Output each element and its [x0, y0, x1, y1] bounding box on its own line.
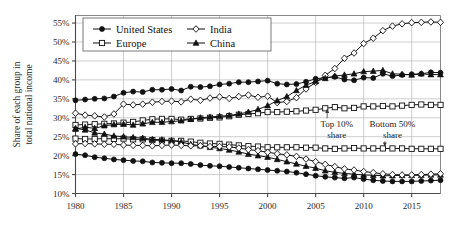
- y-tick-label: 30%: [53, 113, 70, 123]
- data-point-marker: [83, 97, 88, 102]
- annotation-label-top10-line2: share: [327, 130, 346, 140]
- data-point-marker: [227, 81, 232, 86]
- data-point-marker: [92, 155, 97, 160]
- data-point-marker: [207, 163, 212, 168]
- y-axis-title-line: Share of each group in: [12, 61, 22, 147]
- data-point-marker: [140, 90, 145, 95]
- data-point-marker: [438, 178, 443, 183]
- data-point-marker: [111, 157, 116, 162]
- data-point-marker: [140, 159, 145, 164]
- data-point-marker: [390, 104, 395, 109]
- data-point-marker: [399, 146, 404, 151]
- x-tick-label: 2000: [259, 201, 278, 211]
- x-tick-label: 2015: [403, 201, 422, 211]
- data-point-marker: [179, 88, 184, 93]
- data-point-marker: [169, 161, 174, 166]
- data-point-marker: [342, 106, 347, 111]
- data-point-marker: [294, 145, 299, 150]
- chart-container: 10%15%20%25%30%35%40%45%50%55%1980198519…: [0, 0, 453, 234]
- data-point-marker: [409, 102, 414, 107]
- data-point-marker: [428, 178, 433, 183]
- data-point-marker: [265, 109, 270, 114]
- data-point-marker: [100, 27, 105, 32]
- data-point-marker: [380, 103, 385, 108]
- annotation-label-bottom50: Bottom 50%: [370, 119, 416, 129]
- data-point-marker: [159, 87, 164, 92]
- data-point-marker: [188, 161, 193, 166]
- data-point-marker: [361, 177, 366, 182]
- data-point-marker: [419, 102, 424, 107]
- data-point-marker: [371, 146, 376, 151]
- x-tick-label: 1980: [67, 201, 86, 211]
- y-tick-label: 40%: [53, 75, 70, 85]
- x-tick-label: 1985: [115, 201, 134, 211]
- data-point-marker: [303, 108, 308, 113]
- data-point-marker: [73, 152, 78, 157]
- data-point-marker: [284, 82, 289, 87]
- legend-label: China: [210, 38, 235, 49]
- y-tick-label: 10%: [53, 189, 70, 199]
- data-point-marker: [217, 82, 222, 87]
- data-point-marker: [438, 102, 443, 107]
- data-point-marker: [323, 174, 328, 179]
- y-tick-label: 15%: [53, 170, 70, 180]
- data-point-marker: [236, 80, 241, 85]
- data-point-marker: [131, 89, 136, 94]
- data-point-marker: [332, 146, 337, 151]
- y-tick-label: 20%: [53, 151, 70, 161]
- data-point-marker: [102, 156, 107, 161]
- data-point-marker: [150, 87, 155, 92]
- data-point-marker: [371, 75, 376, 80]
- y-tick-label: 55%: [53, 18, 70, 28]
- data-point-marker: [169, 86, 174, 91]
- legend-label: United States: [116, 24, 172, 35]
- data-point-marker: [351, 105, 356, 110]
- data-point-marker: [313, 173, 318, 178]
- annotation-label-bottom50-line2: share: [383, 130, 402, 140]
- data-point-marker: [371, 104, 376, 109]
- data-point-marker: [342, 77, 347, 82]
- data-point-marker: [342, 146, 347, 151]
- data-point-marker: [371, 178, 376, 183]
- data-point-marker: [275, 168, 280, 173]
- data-point-marker: [150, 160, 155, 165]
- data-point-marker: [256, 79, 261, 84]
- data-point-marker: [294, 170, 299, 175]
- data-point-marker: [102, 96, 107, 101]
- data-point-marker: [419, 146, 424, 151]
- data-point-marker: [246, 166, 251, 171]
- data-point-marker: [265, 78, 270, 83]
- y-tick-label: 50%: [53, 37, 70, 47]
- data-point-marker: [179, 161, 184, 166]
- data-point-marker: [198, 85, 203, 90]
- data-point-marker: [332, 175, 337, 180]
- data-point-marker: [121, 90, 126, 95]
- data-point-marker: [400, 179, 405, 184]
- data-point-marker: [390, 179, 395, 184]
- data-point-marker: [352, 175, 357, 180]
- data-point-marker: [304, 172, 309, 177]
- data-point-marker: [438, 146, 443, 151]
- data-point-marker: [284, 145, 289, 150]
- data-point-marker: [256, 167, 261, 172]
- legend-label: India: [210, 24, 232, 35]
- data-point-marker: [275, 109, 280, 114]
- data-point-marker: [303, 145, 308, 150]
- data-point-marker: [428, 146, 433, 151]
- data-point-marker: [313, 145, 318, 150]
- data-point-marker: [198, 163, 203, 168]
- x-tick-label: 1990: [163, 201, 182, 211]
- data-point-marker: [361, 75, 366, 80]
- data-point-marker: [399, 103, 404, 108]
- data-point-marker: [92, 96, 97, 101]
- y-tick-label: 25%: [53, 132, 70, 142]
- data-point-marker: [294, 109, 299, 114]
- data-point-marker: [265, 168, 270, 173]
- data-point-marker: [342, 176, 347, 181]
- data-point-marker: [227, 164, 232, 169]
- data-point-marker: [380, 146, 385, 151]
- data-point-marker: [159, 160, 164, 165]
- data-point-marker: [361, 146, 366, 151]
- data-point-marker: [380, 179, 385, 184]
- data-point-marker: [409, 179, 414, 184]
